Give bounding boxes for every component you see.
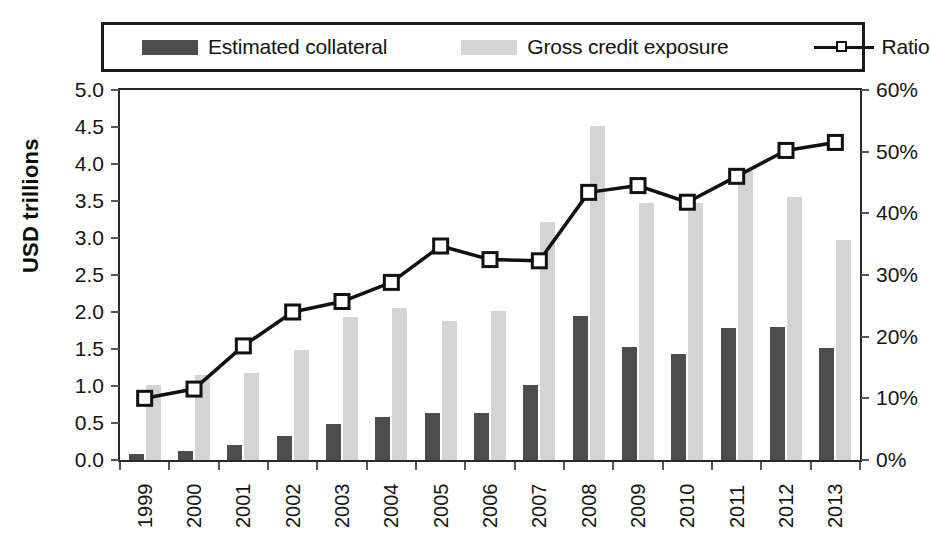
y-tick-left [111,385,119,387]
legend-label-exposure: Gross credit exposure [527,35,728,59]
legend-line-marker-icon [814,38,874,56]
bar-estimated-collateral[interactable] [523,385,538,460]
y-tick-label-left: 0.0 [75,448,104,472]
y-tick-label-left: 5.0 [75,78,104,102]
bar-gross-credit-exposure[interactable] [343,317,358,460]
legend-label-ratio: Ratio [881,35,929,59]
y-tick-right [861,212,869,214]
y-tick-left [111,274,119,276]
bar-gross-credit-exposure[interactable] [244,373,259,460]
x-tick-label: 2003 [331,484,354,529]
bar-gross-credit-exposure[interactable] [392,308,407,460]
y-tick-left [111,237,119,239]
y-tick-label-left: 0.5 [75,411,104,435]
bar-gross-credit-exposure[interactable] [787,197,802,460]
x-tick-label: 2013 [824,484,847,529]
y-tick-label-right: 0% [876,448,906,472]
ratio-marker[interactable]: 2009: 44.5% [631,179,645,193]
bar-estimated-collateral[interactable] [474,413,489,460]
y-tick-left [111,459,119,461]
x-tick-label: 2005 [430,484,453,529]
y-tick-label-left: 1.5 [75,337,104,361]
ratio-marker[interactable]: 2013: 51.5% [828,135,842,149]
y-tick-right [861,274,869,276]
bar-gross-credit-exposure[interactable] [688,203,703,460]
y-tick-right [861,336,869,338]
y-tick-label-left: 4.0 [75,152,104,176]
bar-estimated-collateral[interactable] [819,348,834,460]
y-tick-right [861,459,869,461]
y-tick-label-left: 3.0 [75,226,104,250]
x-axis-labels: 1999200020012002200320042005200620072008… [118,462,858,537]
y-tick-label-left: 4.5 [75,115,104,139]
plot-area: 0.00.51.01.52.02.53.03.54.04.55.0 0%10%2… [118,88,862,462]
x-tick-label: 2012 [775,484,798,529]
chart-legend: Estimated collateral Gross credit exposu… [101,22,865,72]
y-tick-left [111,200,119,202]
y-tick-label-left: 2.0 [75,300,104,324]
x-tick-label: 2010 [676,484,699,529]
y-tick-label-left: 3.5 [75,189,104,213]
x-tick-label: 2009 [627,484,650,529]
legend-label-collateral: Estimated collateral [208,35,387,59]
x-tick-label: 2008 [578,484,601,529]
legend-swatch-collateral-icon [142,40,198,55]
y-tick-right [861,89,869,91]
y-tick-label-left: 1.0 [75,374,104,398]
bar-gross-credit-exposure[interactable] [195,375,210,460]
x-tick [859,462,861,470]
y-tick-right [861,397,869,399]
y-tick-right [861,151,869,153]
y-tick-label-right: 50% [876,140,918,164]
legend-item-gross-credit-exposure[interactable]: Gross credit exposure [461,35,728,59]
x-tick-label: 2002 [282,484,305,529]
bar-gross-credit-exposure[interactable] [146,385,161,460]
ratio-marker[interactable]: 2012: 50.2% [779,143,793,157]
bar-gross-credit-exposure[interactable] [836,240,851,460]
bar-estimated-collateral[interactable] [375,417,390,460]
ratio-marker[interactable]: 2002: 24% [286,305,300,319]
bar-estimated-collateral[interactable] [425,413,440,460]
legend-item-ratio[interactable]: Ratio [814,35,929,59]
bar-estimated-collateral[interactable] [770,327,785,460]
y-tick-label-right: 10% [876,386,918,410]
bar-gross-credit-exposure[interactable] [491,311,506,460]
ratio-marker[interactable]: 2003: 25.7% [335,295,349,309]
y-tick-left [111,126,119,128]
y-tick-label-right: 20% [876,325,918,349]
ratio-marker[interactable]: 2006: 32.5% [483,253,497,267]
x-tick-label: 2011 [726,485,749,528]
bar-gross-credit-exposure[interactable] [294,350,309,460]
y-tick-label-left: 2.5 [75,263,104,287]
y-tick-left [111,311,119,313]
bar-estimated-collateral[interactable] [573,316,588,460]
bar-estimated-collateral[interactable] [671,354,686,460]
bar-estimated-collateral[interactable] [326,424,341,460]
legend-item-estimated-collateral[interactable]: Estimated collateral [142,35,387,59]
bar-gross-credit-exposure[interactable] [738,171,753,460]
ratio-marker[interactable]: 2004: 28.8% [384,275,398,289]
y-tick-left [111,163,119,165]
y-tick-left [111,89,119,91]
y-tick-left [111,348,119,350]
bar-gross-credit-exposure[interactable] [442,321,457,460]
x-tick-label: 2000 [183,484,206,529]
ratio-marker[interactable]: 2001: 18.5% [236,339,250,353]
bar-estimated-collateral[interactable] [227,445,242,460]
x-tick-label: 2001 [232,484,255,529]
y-axis-title-left: USD trillions [18,138,44,273]
bar-gross-credit-exposure[interactable] [639,203,654,460]
y-tick-left [111,422,119,424]
legend-swatch-exposure-icon [461,40,517,55]
y-tick-label-right: 60% [876,78,918,102]
bar-estimated-collateral[interactable] [721,328,736,460]
bar-gross-credit-exposure[interactable] [540,222,555,460]
bar-estimated-collateral[interactable] [178,451,193,460]
bar-estimated-collateral[interactable] [277,436,292,460]
bar-gross-credit-exposure[interactable] [590,126,605,460]
x-tick-label: 1999 [134,484,157,529]
bar-estimated-collateral[interactable] [622,347,637,460]
ratio-marker[interactable]: 2005: 34.7% [434,239,448,253]
bar-estimated-collateral[interactable] [129,454,144,460]
